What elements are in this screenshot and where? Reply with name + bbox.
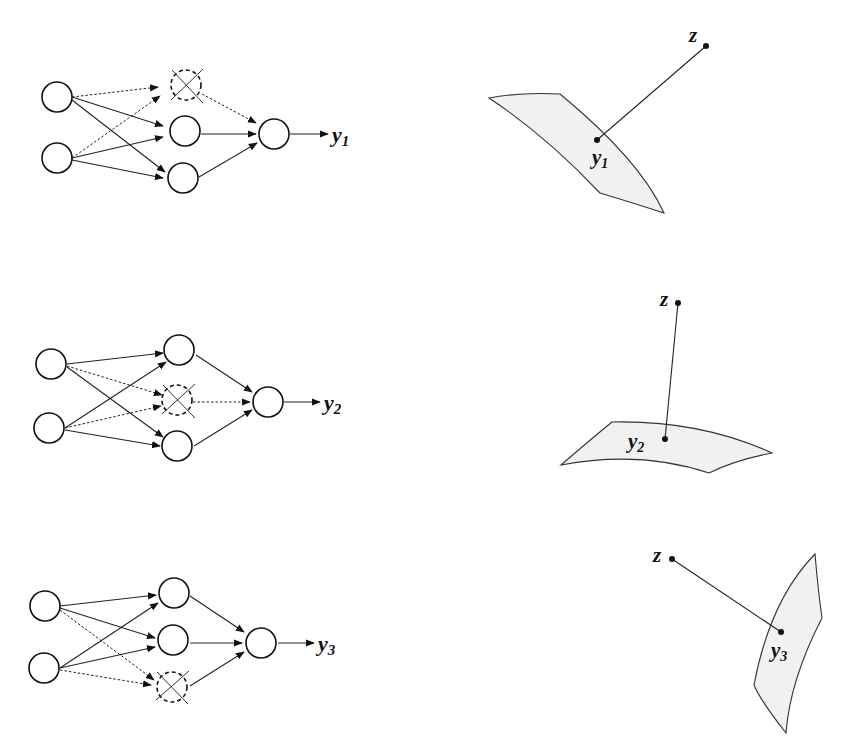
input-node xyxy=(34,413,64,443)
projection-3: z y3 xyxy=(652,543,822,733)
manifold-surface xyxy=(754,554,822,733)
hidden-node xyxy=(170,116,200,146)
input-node xyxy=(30,591,60,621)
output-node xyxy=(259,119,289,149)
network-2: y2 xyxy=(34,335,342,461)
input-node xyxy=(42,143,72,173)
hidden-node xyxy=(164,335,194,365)
surface-point xyxy=(778,629,784,635)
hidden-node xyxy=(159,578,189,608)
surface-point xyxy=(594,137,600,143)
projection-2: z y2 xyxy=(561,287,772,473)
z-point xyxy=(669,556,675,562)
output-label-y2: y2 xyxy=(321,390,342,417)
z-point xyxy=(703,43,709,49)
input-node xyxy=(29,653,59,683)
hidden-node xyxy=(158,625,188,655)
z-label: z xyxy=(659,287,669,311)
network-3: y3 xyxy=(29,578,336,704)
output-label-y3: y3 xyxy=(315,631,336,658)
surface-point xyxy=(662,436,668,442)
projection-1: z y1 xyxy=(489,23,709,213)
z-label: z xyxy=(688,23,698,47)
z-label: z xyxy=(652,543,662,567)
dropout-diagram: y1 z y1 y2 z y2 xyxy=(0,0,855,752)
manifold-surface xyxy=(489,94,664,214)
input-node xyxy=(42,82,72,112)
hidden-node xyxy=(162,431,192,461)
network-1: y1 xyxy=(42,69,349,193)
hidden-node xyxy=(168,163,198,193)
manifold-surface xyxy=(561,422,772,473)
output-label-y1: y1 xyxy=(329,122,349,149)
input-node xyxy=(36,349,66,379)
output-node xyxy=(253,387,283,417)
output-node xyxy=(246,628,276,658)
z-point xyxy=(675,300,681,306)
